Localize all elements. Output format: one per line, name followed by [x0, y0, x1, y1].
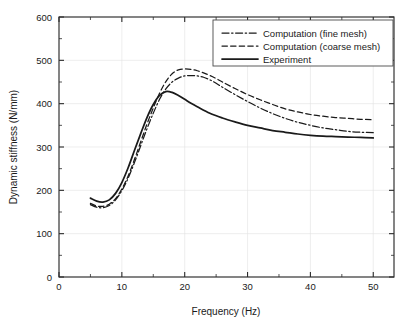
dynamic-stiffness-line-chart: 01020304050 0100200300400500600 Frequenc…	[0, 0, 415, 325]
y-tick-label: 600	[36, 12, 52, 23]
chart-figure: 01020304050 0100200300400500600 Frequenc…	[0, 0, 415, 325]
x-tick-label: 10	[117, 281, 128, 292]
y-tick-label: 400	[36, 98, 52, 109]
y-axis-tick-labels: 0100200300400500600	[36, 12, 52, 283]
legend-label: Computation (coarse mesh)	[263, 41, 380, 52]
x-tick-label: 40	[305, 281, 316, 292]
legend: Computation (fine mesh)Computation (coar…	[213, 20, 393, 66]
y-tick-label: 100	[36, 228, 52, 239]
legend-label: Computation (fine mesh)	[263, 28, 367, 39]
x-tick-label: 20	[179, 281, 190, 292]
x-axis-tick-labels: 01020304050	[56, 281, 378, 292]
y-tick-label: 300	[36, 142, 52, 153]
y-tick-label: 500	[36, 55, 52, 66]
x-tick-label: 50	[368, 281, 379, 292]
x-axis-title: Frequency (Hz)	[192, 306, 261, 317]
y-tick-label: 0	[47, 272, 52, 283]
x-tick-label: 30	[242, 281, 253, 292]
y-axis-title: Dynamic stiffness (N/mm)	[8, 90, 19, 204]
x-tick-label: 0	[56, 281, 61, 292]
y-tick-label: 200	[36, 185, 52, 196]
legend-label: Experiment	[263, 54, 311, 65]
